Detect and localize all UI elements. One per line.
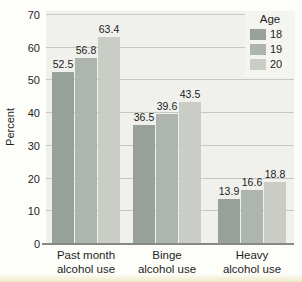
bar-group: 36.539.643.5 <box>133 102 201 244</box>
bar-value-label: 36.5 <box>134 111 154 123</box>
y-tick-label: 20 <box>28 172 40 186</box>
legend-row: 18 <box>250 28 295 40</box>
bar-group: 52.556.863.4 <box>52 37 120 244</box>
bar-column: 52.5 <box>52 72 74 244</box>
legend-rows: 181920 <box>245 28 295 70</box>
bar-group: 13.916.618.8 <box>218 182 286 244</box>
bar-value-label: 13.9 <box>219 185 239 197</box>
bar-value-label: 18.8 <box>265 168 285 180</box>
y-tick-label: 70 <box>28 8 40 22</box>
bar-column: 13.9 <box>218 199 240 244</box>
bar-column: 16.6 <box>241 190 263 244</box>
bar-age-18 <box>218 199 240 244</box>
bar-age-18 <box>52 72 74 244</box>
x-category-label: Heavy alcohol use <box>204 249 300 276</box>
y-tick-label: 60 <box>28 41 40 55</box>
y-tick-label: 50 <box>28 73 40 87</box>
bar-age-19 <box>75 58 97 244</box>
legend-label: 19 <box>270 43 282 55</box>
bar-age-18 <box>133 125 155 244</box>
scan-page-edge <box>0 274 302 282</box>
legend-title: Age <box>245 13 295 25</box>
y-tick-label: 40 <box>28 106 40 120</box>
bar-age-19 <box>156 114 178 244</box>
legend: Age 181920 <box>245 11 295 77</box>
legend-swatch <box>250 29 266 40</box>
legend-swatch <box>250 59 266 70</box>
x-axis-line <box>42 243 294 245</box>
legend-row: 20 <box>250 58 295 70</box>
bar-column: 63.4 <box>98 37 120 244</box>
bar-age-20 <box>264 182 286 244</box>
x-category-label: Binge alcohol use <box>119 249 215 276</box>
bar-column: 43.5 <box>179 102 201 244</box>
legend-label: 20 <box>270 58 282 70</box>
legend-label: 18 <box>270 28 282 40</box>
bar-column: 36.5 <box>133 125 155 244</box>
y-tick-label: 10 <box>28 204 40 218</box>
bar-value-label: 43.5 <box>180 88 200 100</box>
bar-age-20 <box>179 102 201 244</box>
legend-swatch <box>250 44 266 55</box>
bar-value-label: 16.6 <box>242 176 262 188</box>
bar-value-label: 63.4 <box>99 23 119 35</box>
bar-column: 56.8 <box>75 58 97 244</box>
bar-value-label: 52.5 <box>53 58 73 70</box>
bar-column: 39.6 <box>156 114 178 244</box>
bar-chart-figure: Percent 52.556.863.436.539.643.513.916.6… <box>0 0 302 282</box>
bar-value-label: 56.8 <box>76 44 96 56</box>
bar-value-label: 39.6 <box>157 100 177 112</box>
y-axis-ticks: 010203040506070 <box>0 11 40 244</box>
legend-row: 19 <box>250 43 295 55</box>
bar-age-19 <box>241 190 263 244</box>
bar-column: 18.8 <box>264 182 286 244</box>
bar-age-20 <box>98 37 120 244</box>
y-tick-label: 30 <box>28 139 40 153</box>
